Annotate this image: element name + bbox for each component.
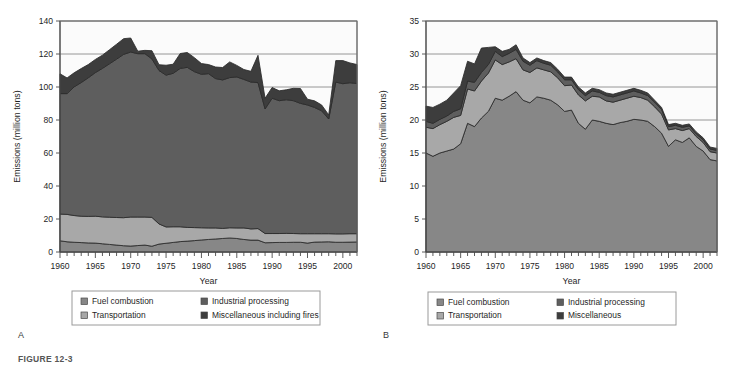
legend-swatch-icon — [557, 299, 564, 306]
x-tick-label: 1990 — [624, 261, 643, 271]
x-tick-label: 1995 — [659, 261, 678, 271]
panel-a-letter: A — [18, 330, 24, 340]
y-tick-label: 120 — [39, 49, 54, 59]
legend-swatch-icon — [201, 298, 208, 305]
legend-swatch-icon — [81, 298, 88, 305]
legend-item-label: Fuel combustion — [448, 297, 510, 307]
x-tick-label: 1970 — [486, 261, 505, 271]
x-tick-label: 1995 — [298, 261, 317, 271]
legend-item: Miscellaneous including fires — [201, 310, 319, 320]
y-tick-label: 0 — [48, 247, 53, 257]
legend-item-label: Industrial processing — [212, 296, 289, 306]
x-tick-label: 1975 — [520, 261, 539, 271]
y-tick-label: 140 — [39, 16, 54, 26]
x-axis-title: Year — [200, 276, 218, 286]
y-tick-label: 0 — [414, 247, 419, 257]
y-tick-label: 20 — [409, 115, 419, 125]
x-axis-title: Year — [563, 276, 581, 286]
x-tick-label: 1965 — [86, 261, 105, 271]
x-tick-label: 1975 — [157, 261, 176, 271]
legend-item-label: Transportation — [448, 310, 502, 320]
chart-panel-b: 0510152025303519601965197019751980198519… — [370, 0, 737, 345]
y-tick-label: 25 — [409, 82, 419, 92]
legend-item-label: Transportation — [92, 310, 146, 320]
legend-swatch-icon — [437, 299, 444, 306]
x-tick-label: 1970 — [121, 261, 140, 271]
x-tick-label: 1980 — [192, 261, 211, 271]
legend-swatch-icon — [557, 313, 564, 320]
y-axis-title: Emissions (million tons) — [12, 90, 22, 182]
figure-container: 0204060801001201401960196519701975198019… — [0, 0, 737, 367]
y-tick-label: 100 — [39, 82, 54, 92]
y-tick-label: 15 — [409, 148, 419, 158]
legend-item: Fuel combustion — [437, 297, 510, 307]
figure-caption: FIGURE 12-3 — [18, 354, 73, 364]
panel-b-letter: B — [383, 330, 389, 340]
x-tick-label: 1980 — [555, 261, 574, 271]
x-tick-label: 1960 — [50, 261, 69, 271]
y-tick-label: 30 — [409, 49, 419, 59]
x-tick-label: 1960 — [416, 261, 435, 271]
legend-item: Industrial processing — [201, 296, 289, 306]
y-tick-label: 80 — [43, 115, 53, 125]
x-tick-label: 1985 — [227, 261, 246, 271]
y-tick-label: 40 — [43, 181, 53, 191]
legend-item-label: Fuel combustion — [92, 296, 154, 306]
legend-item: Industrial processing — [557, 297, 645, 307]
legend-item-label: Miscellaneous including fires — [212, 310, 319, 320]
y-axis-title: Emissions (million tons) — [378, 90, 388, 182]
x-tick-label: 1990 — [263, 261, 282, 271]
emissions-chart-b: 0510152025303519601965197019751980198519… — [370, 0, 737, 345]
legend-item-label: Industrial processing — [568, 297, 645, 307]
legend-swatch-icon — [437, 313, 444, 320]
y-tick-label: 5 — [414, 214, 419, 224]
y-tick-label: 20 — [43, 214, 53, 224]
y-tick-label: 10 — [409, 181, 419, 191]
y-tick-label: 35 — [409, 16, 419, 26]
x-tick-label: 2000 — [694, 261, 713, 271]
x-tick-label: 2000 — [333, 261, 352, 271]
legend-item: Fuel combustion — [81, 296, 154, 306]
legend-swatch-icon — [201, 312, 208, 319]
x-tick-label: 1985 — [590, 261, 609, 271]
legend-item-label: Miscellaneous — [568, 310, 621, 320]
chart-panel-a: 0204060801001201401960196519701975198019… — [0, 0, 370, 345]
x-tick-label: 1965 — [451, 261, 470, 271]
emissions-chart-a: 0204060801001201401960196519701975198019… — [0, 0, 370, 345]
legend-swatch-icon — [81, 312, 88, 319]
y-tick-label: 60 — [43, 148, 53, 158]
